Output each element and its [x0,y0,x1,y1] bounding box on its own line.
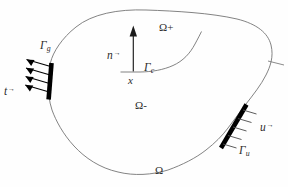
label-gamma-u-symbol: Γ [239,144,246,156]
label-gamma-c: Γc [144,62,154,75]
label-point-x: x [128,75,133,86]
label-gamma-g: Γg [40,40,51,53]
label-normal-vector: n→ [107,50,120,62]
gamma-c-interface-curve [121,32,202,73]
normal-vector-arrowhead [130,26,137,37]
label-traction-vector: t→ [4,86,15,98]
traction-vector-arrow-glyph: → [8,85,15,93]
domain-diagram-figure: Γg t→ n→ x Γc Ω+ Ω- Ω u→ Γu [0,0,288,187]
gamma-g-boundary-segment [49,63,52,100]
normal-vector-arrow-glyph: → [113,49,120,57]
label-gamma-g-symbol: Γ [40,39,47,51]
label-gamma-u: Γu [239,145,250,158]
label-omega-plus: Ω+ [159,22,173,33]
label-omega: Ω [155,165,163,176]
gamma-u-boundary-segment [221,105,247,149]
displacement-vector-arrow-glyph: → [266,121,273,129]
label-gamma-g-subscript: g [47,44,51,53]
traction-arrow-heads [25,60,34,92]
label-gamma-c-symbol: Γ [144,61,151,73]
label-displacement-vector: u→ [260,122,273,134]
label-gamma-u-subscript: u [246,149,250,158]
label-normal-symbol: n [107,49,113,61]
label-gamma-c-subscript: c [151,66,154,75]
label-traction-symbol: t [4,85,7,97]
label-omega-minus: Ω- [135,100,147,111]
diagram-canvas [0,0,288,187]
label-displacement-symbol: u [260,121,266,133]
